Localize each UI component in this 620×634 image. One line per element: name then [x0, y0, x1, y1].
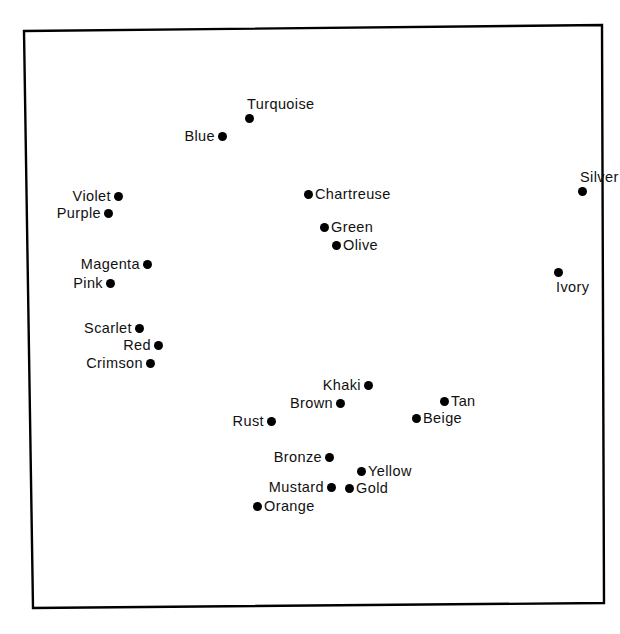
data-point-label: Rust [233, 414, 264, 429]
data-point-label: Blue [184, 129, 215, 144]
data-point-marker [245, 114, 254, 123]
data-point-label: Ivory [556, 280, 589, 295]
data-point-marker [114, 192, 123, 201]
data-point-marker [345, 484, 354, 493]
data-point-label: Orange [264, 499, 315, 514]
data-point-marker [146, 359, 155, 368]
plot-frame-outline [24, 25, 604, 608]
data-point-marker [304, 190, 313, 199]
data-point-marker [143, 260, 152, 269]
data-point-label: Brown [290, 396, 333, 411]
data-point-label: Beige [423, 411, 462, 426]
data-point-label: Chartreuse [315, 187, 391, 202]
data-point-marker [332, 241, 341, 250]
data-point-marker [106, 279, 115, 288]
data-point-marker [336, 399, 345, 408]
data-point-label: Turquoise [247, 97, 315, 112]
data-point-marker [253, 502, 262, 511]
data-point-marker [327, 483, 336, 492]
data-point-label: Tan [451, 394, 476, 409]
data-point-label: Scarlet [84, 321, 132, 336]
data-point-label: Olive [343, 238, 378, 253]
data-point-marker [364, 381, 373, 390]
data-point-label: Silver [580, 170, 619, 185]
data-point-label: Green [331, 220, 373, 235]
data-point-label: Mustard [269, 480, 324, 495]
data-point-label: Purple [57, 206, 101, 221]
data-point-marker [357, 467, 366, 476]
data-point-marker [320, 223, 329, 232]
data-point-marker [554, 268, 563, 277]
data-point-marker [154, 341, 163, 350]
data-point-marker [325, 453, 334, 462]
data-point-marker [412, 414, 421, 423]
data-point-label: Yellow [368, 464, 412, 479]
data-point-marker [578, 187, 587, 196]
data-point-label: Gold [356, 481, 388, 496]
data-point-label: Crimson [86, 356, 143, 371]
data-point-marker [267, 417, 276, 426]
data-point-marker [440, 397, 449, 406]
data-point-marker [218, 132, 227, 141]
data-point-label: Bronze [274, 450, 322, 465]
data-point-label: Violet [73, 189, 111, 204]
data-point-label: Khaki [323, 378, 361, 393]
scatter-plot-figure: TurquoiseBlueSilverVioletPurpleChartreus… [0, 0, 620, 634]
data-point-label: Pink [73, 276, 103, 291]
data-point-marker [104, 209, 113, 218]
data-point-label: Magenta [81, 257, 140, 272]
data-point-label: Red [123, 338, 151, 353]
data-point-marker [135, 324, 144, 333]
